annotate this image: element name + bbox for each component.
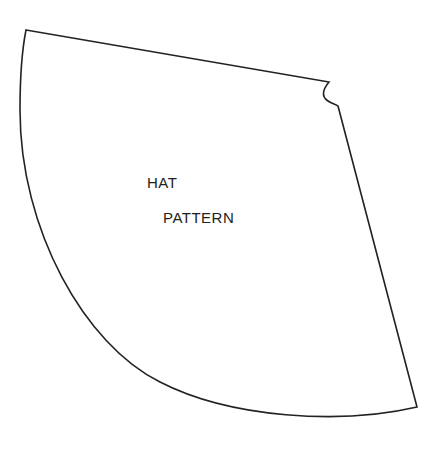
pattern-label-hat: HAT <box>147 174 177 191</box>
pattern-label-pattern: PATTERN <box>163 209 234 226</box>
